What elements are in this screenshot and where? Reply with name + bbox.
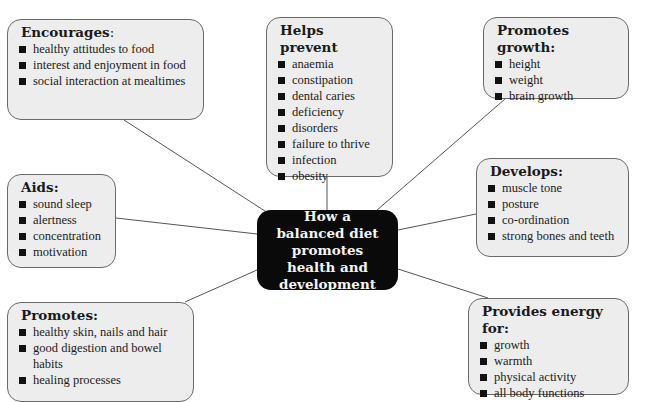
square-bullet-icon bbox=[19, 233, 26, 240]
connector-encourages bbox=[124, 120, 268, 213]
square-bullet-icon bbox=[480, 358, 487, 365]
list-item: all body functions bbox=[477, 385, 620, 401]
square-bullet-icon bbox=[19, 329, 26, 336]
node-title: Provides energy for: bbox=[482, 303, 620, 337]
square-bullet-icon bbox=[278, 61, 285, 68]
list-item: dental caries bbox=[275, 88, 384, 104]
square-bullet-icon bbox=[19, 46, 26, 53]
list-item: good digestion and bowel habits bbox=[16, 340, 185, 372]
list-item: social interaction at mealtimes bbox=[16, 73, 195, 89]
square-bullet-icon bbox=[19, 345, 26, 352]
square-bullet-icon bbox=[488, 185, 495, 192]
list-item: disorders bbox=[275, 120, 384, 136]
connector-promotes bbox=[185, 270, 257, 302]
square-bullet-icon bbox=[488, 201, 495, 208]
connector-develops bbox=[398, 214, 476, 230]
list-item: concentration bbox=[16, 228, 107, 244]
node-title: Aids: bbox=[21, 179, 107, 196]
square-bullet-icon bbox=[278, 93, 285, 100]
list-item: healing processes bbox=[16, 372, 185, 388]
square-bullet-icon bbox=[480, 374, 487, 381]
node-provides-energy: Provides energy for: growth warmth physi… bbox=[468, 298, 629, 395]
list-item: constipation bbox=[275, 72, 384, 88]
list-item: healthy skin, nails and hair bbox=[16, 324, 185, 340]
connector-aids bbox=[116, 218, 257, 234]
square-bullet-icon bbox=[19, 78, 26, 85]
square-bullet-icon bbox=[278, 125, 285, 132]
square-bullet-icon bbox=[278, 77, 285, 84]
node-title: Promotes: bbox=[21, 307, 185, 324]
square-bullet-icon bbox=[19, 201, 26, 208]
list-item: weight bbox=[492, 72, 620, 88]
square-bullet-icon bbox=[278, 109, 285, 116]
node-title: Develops: bbox=[490, 163, 620, 180]
square-bullet-icon bbox=[480, 342, 487, 349]
square-bullet-icon bbox=[480, 390, 487, 397]
connector-provides-energy bbox=[398, 269, 488, 298]
node-promotes: Promotes: healthy skin, nails and hair g… bbox=[7, 302, 194, 402]
list-item: muscle tone bbox=[485, 180, 620, 196]
list-item: co-ordination bbox=[485, 212, 620, 228]
node-aids: Aids: sound sleep alertness concentratio… bbox=[7, 174, 116, 268]
square-bullet-icon bbox=[488, 233, 495, 240]
square-bullet-icon bbox=[495, 93, 502, 100]
central-topic: How a balanced diet promotes health and … bbox=[257, 210, 398, 290]
square-bullet-icon bbox=[495, 77, 502, 84]
list-item: failure to thrive bbox=[275, 136, 384, 152]
square-bullet-icon bbox=[19, 62, 26, 69]
list-item: interest and enjoyment in food bbox=[16, 57, 195, 73]
list-item: brain growth bbox=[492, 88, 620, 104]
list-item: infection bbox=[275, 152, 384, 168]
square-bullet-icon bbox=[19, 377, 26, 384]
node-title: Promotes growth: bbox=[497, 22, 620, 56]
node-encourages: Encourages: healthy attitudes to food in… bbox=[7, 19, 204, 120]
square-bullet-icon bbox=[278, 173, 285, 180]
square-bullet-icon bbox=[495, 61, 502, 68]
square-bullet-icon bbox=[19, 217, 26, 224]
list-item: anaemia bbox=[275, 56, 384, 72]
list-item: growth bbox=[477, 337, 620, 353]
list-item: height bbox=[492, 56, 620, 72]
square-bullet-icon bbox=[488, 217, 495, 224]
list-item: alertness bbox=[16, 212, 107, 228]
square-bullet-icon bbox=[278, 157, 285, 164]
node-helps-prevent: Helps prevent anaemia constipation denta… bbox=[266, 17, 393, 177]
node-title: Helps prevent bbox=[280, 22, 384, 56]
square-bullet-icon bbox=[278, 141, 285, 148]
square-bullet-icon bbox=[19, 249, 26, 256]
list-item: motivation bbox=[16, 244, 107, 260]
list-item: obesity bbox=[275, 168, 384, 184]
list-item: strong bones and teeth bbox=[485, 228, 620, 244]
node-promotes-growth: Promotes growth: height weight brain gro… bbox=[483, 17, 629, 99]
list-item: healthy attitudes to food bbox=[16, 41, 195, 57]
node-title: Encourages: bbox=[21, 24, 195, 41]
list-item: deficiency bbox=[275, 104, 384, 120]
list-item: warmth bbox=[477, 353, 620, 369]
list-item: physical activity bbox=[477, 369, 620, 385]
list-item: posture bbox=[485, 196, 620, 212]
node-develops: Develops: muscle tone posture co-ordinat… bbox=[476, 158, 629, 257]
list-item: sound sleep bbox=[16, 196, 107, 212]
